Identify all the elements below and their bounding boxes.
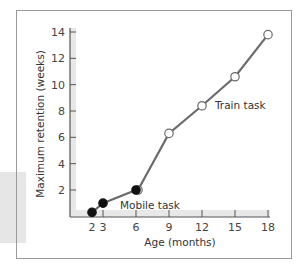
y-tick-label: 6 [58, 131, 65, 144]
open-marker [231, 73, 239, 81]
filled-marker [99, 199, 107, 207]
x-tick-label: 18 [261, 221, 275, 234]
series-line-train-task [138, 35, 268, 190]
axis-bands [70, 28, 270, 217]
filled-marker [132, 186, 140, 194]
y-axis-band [70, 28, 76, 217]
line-chart: 24681012142369121518 Maximum retention (… [0, 0, 299, 269]
y-tick-label: 14 [51, 26, 65, 39]
open-marker [198, 102, 206, 110]
x-tick-label: 12 [195, 221, 209, 234]
x-axis-label: Age (months) [144, 236, 215, 248]
x-tick-label: 3 [100, 221, 107, 234]
open-marker [264, 30, 272, 38]
series-label-train: Train task [214, 99, 267, 111]
series-label-mobile: Mobile task [120, 199, 181, 211]
x-axis-band [70, 210, 270, 217]
x-tick-label: 9 [166, 221, 173, 234]
y-axis-label: Maximum retention (weeks) [34, 50, 46, 198]
y-tick-label: 12 [51, 52, 65, 65]
y-tick-label: 4 [58, 158, 65, 171]
x-tick-label: 2 [89, 221, 96, 234]
open-marker [165, 129, 173, 137]
y-tick-label: 8 [58, 105, 65, 118]
y-tick-label: 10 [51, 79, 65, 92]
x-tick-label: 15 [228, 221, 242, 234]
y-tick-label: 2 [58, 184, 65, 197]
series-lines [88, 30, 272, 216]
x-tick-label: 6 [133, 221, 140, 234]
filled-marker [88, 208, 96, 216]
